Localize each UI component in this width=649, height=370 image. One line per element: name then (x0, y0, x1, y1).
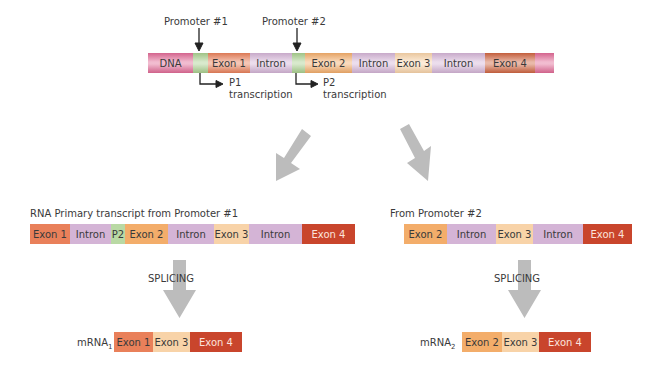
t1-segment-exon1: Exon 1 (30, 224, 70, 244)
promoter1-label: Promoter #1 (164, 16, 228, 27)
splicing-arrow-left-icon (163, 260, 196, 318)
p1-transcription-arrow (200, 72, 223, 88)
t2-segment-intron1: Intron (447, 224, 496, 244)
p2-transcription-arrow (296, 72, 318, 88)
p1-label: P1 (229, 77, 241, 88)
dna-segment-promoter1 (193, 53, 208, 73)
mrna2-bar: Exon 2 Exon 3 Exon 4 (462, 332, 591, 352)
m2-segment-exon3: Exon 3 (502, 332, 539, 352)
t1-segment-intron2: Intron (168, 224, 214, 244)
dna-segment-exon4: Exon 4 (485, 53, 535, 73)
dna-segment-exon1: Exon 1 (208, 53, 250, 73)
t2-segment-exon3: Exon 3 (496, 224, 533, 244)
m2-segment-exon2: Exon 2 (462, 332, 502, 352)
m1-segment-exon4: Exon 4 (190, 332, 242, 352)
t1-segment-p2: P2 (111, 224, 125, 244)
promoter1-pointer-arrow (195, 28, 203, 51)
splicing-arrow-right-icon (508, 260, 541, 318)
big-arrow-left-icon (276, 129, 311, 181)
dna-segment-promoter2 (292, 53, 305, 73)
dna-bar: DNA Exon 1 Intron Exon 2 Intron Exon 3 I… (148, 53, 554, 73)
t1-segment-exon3: Exon 3 (214, 224, 249, 244)
t2-segment-intron2: Intron (533, 224, 583, 244)
dna-segment-tail (535, 53, 554, 73)
mrna2-label: mRNA2 (420, 337, 455, 351)
mrna1-bar: Exon 1 Exon 3 Exon 4 (114, 332, 242, 352)
promoter2-pointer-arrow (293, 28, 301, 51)
mrna1-label: mRNA1 (77, 337, 112, 351)
t1-segment-intron3: Intron (249, 224, 302, 244)
transcript2-bar: Exon 2 Intron Exon 3 Intron Exon 4 (404, 224, 632, 244)
m1-segment-exon3: Exon 3 (153, 332, 190, 352)
t2-segment-exon2: Exon 2 (404, 224, 447, 244)
t1-segment-exon2: Exon 2 (125, 224, 168, 244)
p2-label: P2 (323, 77, 335, 88)
dna-segment-intron1: Intron (250, 53, 292, 73)
dna-segment-intron2: Intron (352, 53, 395, 73)
t1-segment-exon4: Exon 4 (302, 224, 355, 244)
m2-segment-exon4: Exon 4 (539, 332, 591, 352)
transcript1-title: RNA Primary transcript from Promoter #1 (30, 208, 238, 219)
splicing-label-right: SPLICING (494, 273, 540, 284)
transcript2-title: From Promoter #2 (390, 208, 482, 219)
p2-transcription-label: transcription (323, 89, 387, 100)
m1-segment-exon1: Exon 1 (114, 332, 153, 352)
dna-segment-exon3: Exon 3 (395, 53, 432, 73)
t2-segment-exon4: Exon 4 (583, 224, 632, 244)
dna-segment-exon2: Exon 2 (305, 53, 352, 73)
t1-segment-intron1: Intron (70, 224, 111, 244)
transcript1-bar: Exon 1 Intron P2 Exon 2 Intron Exon 3 In… (30, 224, 355, 244)
p1-transcription-label: transcription (229, 89, 293, 100)
promoter2-label: Promoter #2 (262, 16, 326, 27)
dna-segment-intron3: Intron (432, 53, 485, 73)
dna-segment-dna: DNA (148, 53, 193, 73)
splicing-label-left: SPLICING (148, 273, 194, 284)
big-arrow-right-icon (400, 124, 431, 181)
